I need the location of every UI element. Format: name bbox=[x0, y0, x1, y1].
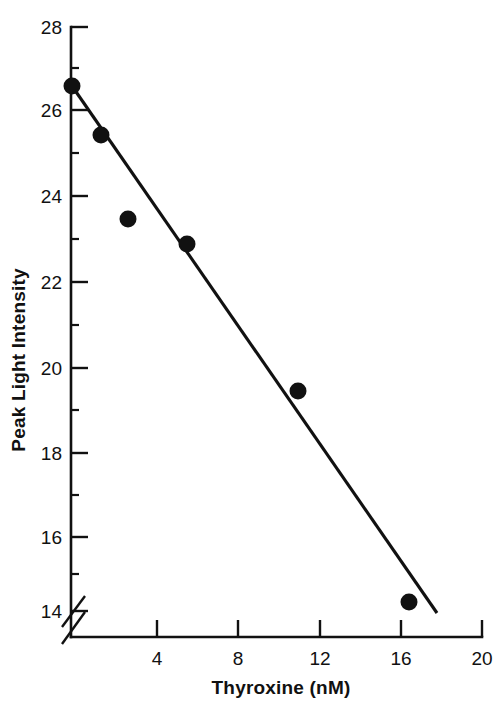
data-point[interactable] bbox=[401, 594, 418, 611]
x-tick-label-12: 12 bbox=[309, 648, 330, 669]
x-axis-title: Thyroxine (nM) bbox=[212, 677, 351, 698]
y-tick-label-18: 18 bbox=[41, 443, 62, 464]
y-tick-label-22: 22 bbox=[41, 272, 62, 293]
x-tick-label-4: 4 bbox=[152, 648, 163, 669]
x-tick-label-20: 20 bbox=[471, 648, 492, 669]
x-axis-tick-labels: 4 8 12 16 20 bbox=[152, 648, 493, 669]
y-tick-label-24: 24 bbox=[41, 186, 63, 207]
data-point[interactable] bbox=[120, 211, 137, 228]
y-tick-label-26: 26 bbox=[41, 100, 62, 121]
y-tick-label-28: 28 bbox=[41, 17, 62, 38]
data-point[interactable] bbox=[93, 127, 110, 144]
regression-line bbox=[72, 86, 437, 613]
data-point[interactable] bbox=[179, 236, 196, 253]
y-tick-label-14: 14 bbox=[41, 601, 63, 622]
data-point[interactable] bbox=[64, 78, 81, 95]
scatter-plot-figure: 28 26 24 22 20 18 16 14 4 8 12 16 20 bbox=[0, 0, 501, 704]
y-axis-tick-labels: 28 26 24 22 20 18 16 14 bbox=[41, 17, 63, 622]
y-axis-major-ticks bbox=[71, 27, 88, 611]
y-tick-label-20: 20 bbox=[41, 358, 62, 379]
y-tick-label-16: 16 bbox=[41, 527, 62, 548]
x-tick-label-8: 8 bbox=[233, 648, 244, 669]
data-point-series bbox=[64, 78, 418, 611]
x-axis-ticks bbox=[157, 620, 482, 637]
data-point[interactable] bbox=[290, 383, 307, 400]
y-axis-title: Peak Light Intensity bbox=[8, 268, 29, 452]
x-tick-label-16: 16 bbox=[390, 648, 411, 669]
chart-canvas: 28 26 24 22 20 18 16 14 4 8 12 16 20 bbox=[0, 0, 501, 704]
